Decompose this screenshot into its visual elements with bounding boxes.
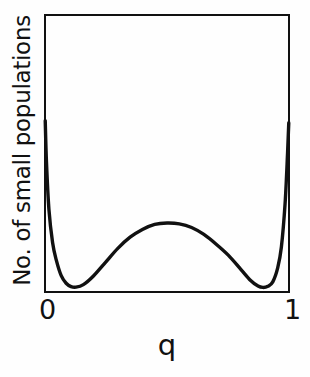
plot-area bbox=[44, 14, 290, 293]
x-tick-label-0: 0 bbox=[39, 296, 56, 323]
x-axis-label: q bbox=[158, 331, 176, 360]
curve-svg bbox=[44, 14, 290, 293]
x-axis-label-container: q bbox=[0, 331, 310, 360]
y-axis-label-container: No. of small populations bbox=[0, 0, 44, 300]
x-tick-label-1: 1 bbox=[284, 296, 301, 323]
y-axis-label: No. of small populations bbox=[11, 15, 34, 286]
distribution-curve bbox=[45, 121, 289, 288]
chart-figure: No. of small populations 0 1 q bbox=[0, 0, 310, 377]
